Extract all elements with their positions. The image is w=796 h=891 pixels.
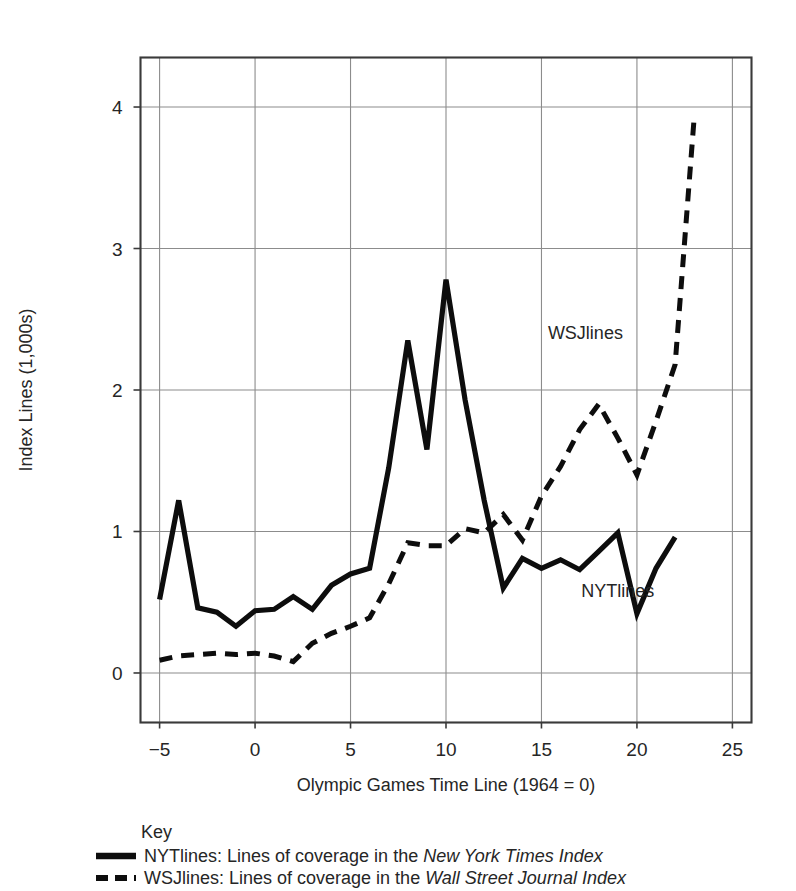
x-tick-label: 15 [531, 739, 552, 760]
x-tick-label: 0 [250, 739, 261, 760]
x-tick-label: 5 [345, 739, 356, 760]
key-label-emphasis: New York Times Index [423, 846, 604, 866]
y-tick-label: 2 [112, 380, 123, 401]
x-tick-label: −5 [149, 739, 171, 760]
key-title: Key [141, 822, 172, 842]
key-entry-label: WSJlines: Lines of coverage in the Wall … [144, 868, 627, 888]
line-chart: NYTlinesWSJlines −50510152025 01234 Olym… [0, 0, 796, 891]
y-tick-label: 3 [112, 239, 123, 260]
x-tick-label: 25 [722, 739, 743, 760]
x-tick-label: 10 [435, 739, 456, 760]
annotation-nytlines: NYTlines [581, 581, 654, 601]
y-tick-label: 0 [112, 663, 123, 684]
y-axis-title: Index Lines (1,000s) [16, 308, 36, 471]
key-entry: NYTlines: Lines of coverage in the New Y… [96, 846, 604, 866]
x-tick-label: 20 [626, 739, 647, 760]
y-axis-tick-labels: 01234 [112, 97, 123, 684]
chart-key: Key NYTlines: Lines of coverage in the N… [96, 822, 627, 888]
chart-figure: NYTlinesWSJlines −50510152025 01234 Olym… [0, 0, 796, 891]
annotation-wsjlines: WSJlines [548, 323, 623, 343]
plot-area: NYTlinesWSJlines [134, 58, 752, 729]
key-entry: WSJlines: Lines of coverage in the Wall … [96, 868, 627, 888]
key-entry-label: NYTlines: Lines of coverage in the New Y… [144, 846, 604, 866]
x-axis-tick-labels: −50510152025 [149, 739, 743, 760]
x-axis-title: Olympic Games Time Line (1964 = 0) [297, 775, 596, 795]
key-entry-list: NYTlines: Lines of coverage in the New Y… [96, 846, 627, 888]
key-label-prefix: WSJlines: Lines of coverage in the [144, 868, 425, 888]
y-tick-label: 4 [112, 97, 123, 118]
key-label-prefix: NYTlines: Lines of coverage in the [144, 846, 423, 866]
key-label-emphasis: Wall Street Journal Index [425, 868, 627, 888]
y-tick-label: 1 [112, 521, 123, 542]
